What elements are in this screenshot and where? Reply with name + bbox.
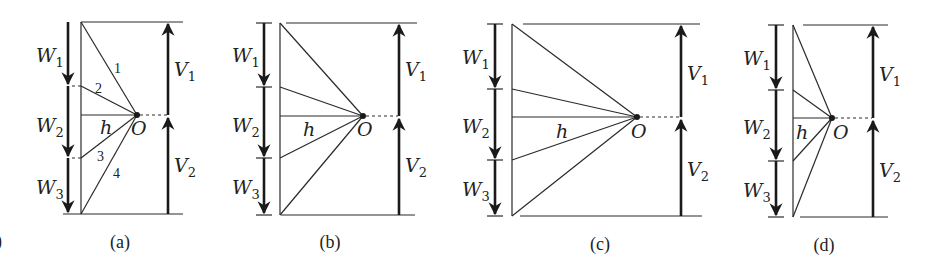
label-w2: W2 xyxy=(462,115,490,141)
panel-a: W1 W2 W3 V1 V2 h O 1 2 3 4 (a) xyxy=(36,22,196,253)
label-h: h xyxy=(556,120,568,142)
label-o: O xyxy=(131,117,147,139)
label-w2: W2 xyxy=(36,114,64,140)
label-v2: V2 xyxy=(687,158,709,184)
fan-line-4 xyxy=(280,116,363,215)
panel-d: W1 W2 W3 V1 V2 h O (d) xyxy=(743,25,901,256)
label-o: O xyxy=(631,120,647,142)
label-w1: W1 xyxy=(462,46,490,72)
label-w2: W2 xyxy=(743,116,771,142)
fan-line-3 xyxy=(512,117,637,160)
panel-c: W1 W2 W3 V1 V2 h O (c) xyxy=(462,24,709,255)
stray-parenthesis: ) xyxy=(0,231,2,252)
label-v1: V1 xyxy=(174,58,196,84)
label-h: h xyxy=(796,121,808,143)
label-v2: V2 xyxy=(405,154,427,180)
line-number-4: 4 xyxy=(113,166,120,181)
line-number-2: 2 xyxy=(95,81,102,96)
label-w3: W3 xyxy=(743,179,771,205)
label-v2: V2 xyxy=(879,159,901,185)
panel-b: W1 W2 W3 V1 V2 h O (b) xyxy=(232,23,427,253)
label-w1: W1 xyxy=(743,47,771,73)
label-v1: V1 xyxy=(879,63,901,89)
caption-d: (d) xyxy=(814,235,835,256)
label-o: O xyxy=(357,118,373,140)
label-w3: W3 xyxy=(232,176,260,202)
label-w3: W3 xyxy=(462,178,490,204)
figure-canvas: ) W1 W2 W3 V1 V2 h O 1 2 3 4 ( xyxy=(0,0,941,267)
label-o: O xyxy=(833,121,849,143)
line-number-3: 3 xyxy=(97,149,104,164)
label-w1: W1 xyxy=(36,44,64,70)
label-v1: V1 xyxy=(687,62,709,88)
fan-line-3 xyxy=(280,116,363,158)
fan-line-4 xyxy=(512,117,637,216)
label-v2: V2 xyxy=(174,154,196,180)
label-h: h xyxy=(100,116,112,138)
caption-c: (c) xyxy=(590,234,610,255)
label-v1: V1 xyxy=(405,58,427,84)
label-h: h xyxy=(303,118,315,140)
label-w2: W2 xyxy=(232,114,260,140)
label-w3: W3 xyxy=(36,176,64,202)
label-w1: W1 xyxy=(232,44,260,70)
line-number-1: 1 xyxy=(114,61,121,76)
caption-b: (b) xyxy=(320,232,341,253)
caption-a: (a) xyxy=(110,232,130,253)
